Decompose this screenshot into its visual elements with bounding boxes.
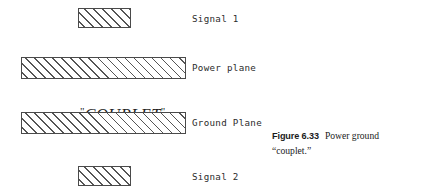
- layer-label-signal-1: Signal 1: [192, 13, 239, 24]
- layer-label-signal-2: Signal 2: [192, 171, 239, 182]
- figure-caption-line-1: Power ground: [325, 130, 379, 141]
- layer-bar-ground-plane: [21, 112, 186, 134]
- figure-number: Figure 6.33: [272, 131, 319, 141]
- figure-caption-line-2: “couplet.”: [272, 145, 311, 156]
- layer-bar-signal-1: [78, 8, 131, 28]
- layer-label-power-plane: Power plane: [192, 62, 256, 73]
- layer-label-ground-plane: Ground Plane: [192, 117, 262, 128]
- figure-power-ground-couplet: Signal 1 Power plane "COUPLET" Ground Pl…: [0, 0, 427, 196]
- layer-bar-signal-2: [78, 166, 131, 186]
- layer-bar-power-plane: [21, 57, 186, 79]
- figure-caption: Figure 6.33Power ground “couplet.”: [272, 129, 422, 157]
